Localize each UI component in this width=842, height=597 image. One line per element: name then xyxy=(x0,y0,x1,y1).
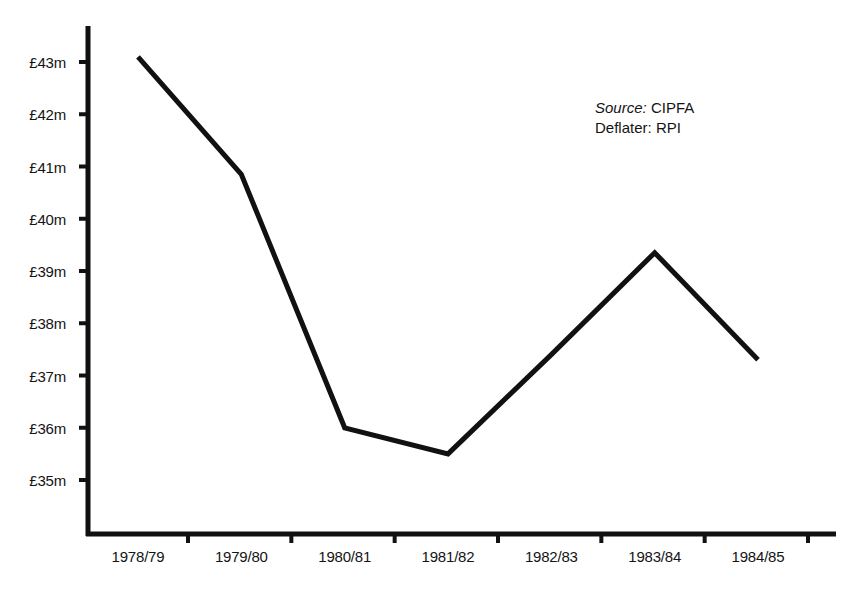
annotation-deflater-value: RPI xyxy=(656,119,681,136)
y-axis-tick-label: £38m xyxy=(0,315,66,332)
line-chart-plot xyxy=(0,0,842,597)
y-axis-tick-label: £41m xyxy=(0,158,66,175)
annotation-source-value: CIPFA xyxy=(651,99,694,116)
y-axis-tick-label: £40m xyxy=(0,210,66,227)
chart-container: £43m£42m£41m£40m£39m£38m£37m£36m£35m 197… xyxy=(0,0,842,597)
y-axis-tick-label: £35m xyxy=(0,472,66,489)
y-axis-tick-label: £36m xyxy=(0,419,66,436)
x-axis-tick-label: 1980/81 xyxy=(318,548,371,565)
y-axis-tick-label: £37m xyxy=(0,367,66,384)
y-axis-tick-label: £39m xyxy=(0,263,66,280)
y-axis-tick-label: £42m xyxy=(0,106,66,123)
annotation-line-source: Source: CIPFA xyxy=(595,98,694,118)
x-axis-tick-label: 1979/80 xyxy=(215,548,268,565)
chart-annotation-source-deflater: Source: CIPFA Deflater: RPI xyxy=(595,98,694,138)
x-axis-tick-label: 1978/79 xyxy=(112,548,165,565)
annotation-source-key: Source: xyxy=(595,99,647,116)
x-axis-tick-label: 1982/83 xyxy=(525,548,578,565)
x-axis-tick-label: 1984/85 xyxy=(732,548,785,565)
x-axis-tick-label: 1981/82 xyxy=(422,548,475,565)
x-axis-tick-label: 1983/84 xyxy=(628,548,681,565)
annotation-line-deflater: Deflater: RPI xyxy=(595,118,694,138)
chart-axes xyxy=(86,26,836,536)
annotation-deflater-key: Deflater: xyxy=(595,119,652,136)
y-axis-tick-label: £43m xyxy=(0,54,66,71)
